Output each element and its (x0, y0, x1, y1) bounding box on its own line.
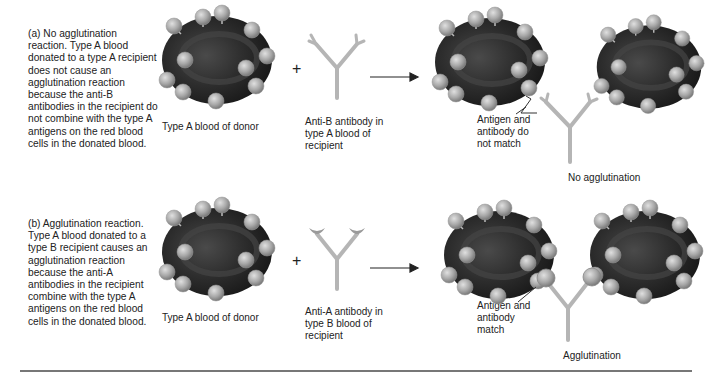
panel-a-cell-right (594, 15, 704, 114)
panel-b-matched-antibody-icon (548, 281, 589, 340)
panel-a-unmatched-antibody-icon (541, 94, 597, 162)
panel-a-donor-cell (159, 5, 275, 109)
panel-b-cell-right (587, 200, 703, 304)
panel-b-anti-a-antibody-icon (317, 234, 357, 289)
panel-b-donor-cell (159, 197, 275, 301)
diagram-artwork (0, 0, 719, 380)
bottom-divider (20, 370, 692, 372)
panel-b-cell-left (441, 200, 557, 304)
panel-a-cell-left (432, 7, 548, 111)
panel-a-arrow-icon (370, 73, 418, 81)
panel-a-anti-b-antibody-icon (309, 35, 364, 98)
panel-b-arrow-icon (370, 264, 418, 272)
panel-b-bound-antigens (537, 268, 601, 287)
panel-b-antibody-binding-sites (309, 228, 365, 234)
